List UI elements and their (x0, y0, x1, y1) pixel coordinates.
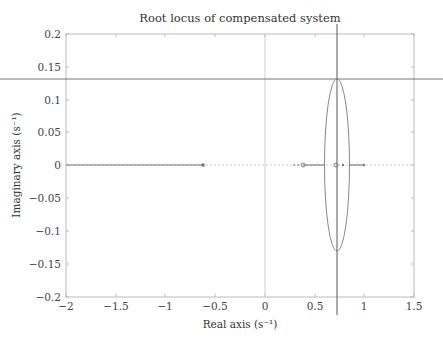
svg-text:−0.2: −0.2 (36, 291, 62, 303)
svg-text:0.2: 0.2 (44, 28, 61, 40)
svg-text:0.15: 0.15 (38, 61, 61, 73)
svg-text:0.1: 0.1 (44, 94, 61, 106)
svg-text:−1.5: −1.5 (103, 300, 129, 312)
pole-marker (363, 164, 365, 166)
pole-marker (293, 164, 295, 166)
svg-text:0: 0 (54, 159, 61, 171)
svg-text:0: 0 (262, 300, 269, 312)
svg-text:−0.05: −0.05 (29, 192, 61, 204)
svg-text:1: 1 (361, 300, 368, 312)
pole-marker (342, 164, 344, 166)
svg-text:−0.1: −0.1 (36, 225, 62, 237)
root-locus-chart: Root locus of compensated system −2 −1.5… (0, 0, 443, 346)
svg-text:1.5: 1.5 (406, 300, 423, 312)
chart-title: Root locus of compensated system (139, 11, 340, 25)
y-axis-label: Imaginary axis (s⁻¹) (10, 112, 22, 217)
svg-text:0.05: 0.05 (38, 126, 61, 138)
svg-text:−0.15: −0.15 (29, 258, 61, 270)
x-axis-label: Real axis (s⁻¹) (203, 318, 278, 330)
pole-marker (201, 163, 205, 167)
y-tick-labels: 0.2 0.15 0.1 0.05 0 −0.05 −0.1 −0.15 −0.… (29, 28, 61, 303)
svg-text:−1: −1 (157, 300, 172, 312)
pole-marker (297, 164, 299, 166)
x-tick-labels: −2 −1.5 −1 −0.5 0 0.5 1 1.5 (58, 300, 422, 312)
svg-text:0.5: 0.5 (307, 300, 324, 312)
svg-text:−0.5: −0.5 (202, 300, 228, 312)
